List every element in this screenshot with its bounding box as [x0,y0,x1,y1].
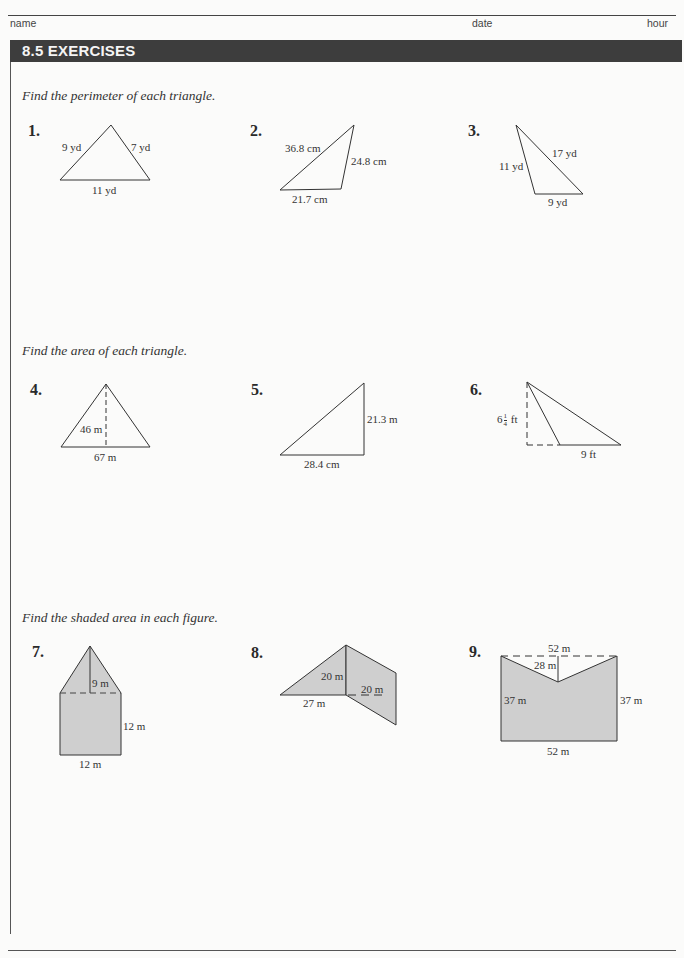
left-side-label: 37 m [504,694,526,706]
top-width-label: 52 m [548,642,570,654]
notched-rectangle-figure [0,0,684,958]
notch-depth-label: 28 m [534,659,556,671]
base-label: 52 m [547,745,569,757]
right-side-label: 37 m [620,694,642,706]
